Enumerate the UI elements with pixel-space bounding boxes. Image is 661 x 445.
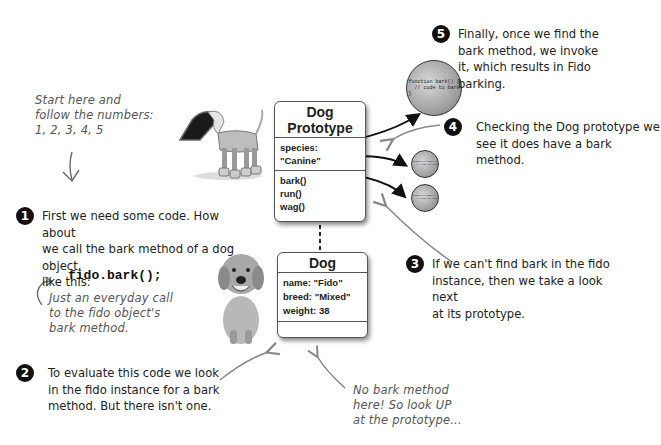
run-function-code: function run() { // code to run } (413, 160, 437, 169)
step-5: 5 Finally, once we find the bark method,… (432, 26, 632, 92)
dog-instance-box: Dog name: "Fido" breed: "Mixed" weight: … (277, 252, 368, 338)
code-note-line: Just an everyday call (49, 291, 189, 306)
wag-function-code: function wag() { // code to wag } (413, 194, 437, 203)
step-3-text: If we can't find bark in the fido instan… (432, 256, 626, 322)
step-text-line: see it does have a bark method. (476, 136, 661, 169)
lookup-note: No bark method here! So look UP at the p… (353, 383, 493, 428)
code-note: Just an everyday call to the fido object… (49, 291, 189, 336)
step-5-text: Finally, once we find the bark method, w… (458, 26, 599, 92)
prototype-title: Dog Prototype (275, 102, 365, 138)
step-2: 2 To evaluate this code we look in the f… (16, 365, 236, 415)
step-4-text: Checking the Dog prototype we see it doe… (476, 119, 661, 169)
step-2-text: To evaluate this code we look in the fid… (48, 365, 220, 415)
code-sample: fido.bark(); (68, 268, 162, 283)
method-run: run() (280, 187, 360, 200)
intro-note: Start here and follow the numbers: 1, 2,… (35, 93, 175, 138)
code-note-line: to the fido object's (49, 306, 189, 321)
step-4: 4 Checking the Dog prototype we see it d… (444, 119, 661, 169)
step-number-badge: 5 (432, 25, 450, 43)
step-text-line: it, which results in Fido (458, 59, 599, 76)
instance-property: name: "Fido" (283, 276, 362, 290)
wag-function-circle: function wag() { // code to wag } (411, 184, 439, 212)
method-bark: bark() (280, 174, 360, 187)
step-text-line: Finally, once we find the (458, 26, 599, 43)
code-note-line: bark method. (49, 321, 189, 336)
dog-prototype-box: Dog Prototype species: "Canine" bark() r… (274, 101, 366, 222)
instance-property: breed: "Mixed" (283, 290, 362, 304)
lookup-note-line: No bark method (353, 383, 493, 398)
robot-dog-image (178, 88, 270, 183)
step-number-badge: 4 (444, 118, 462, 136)
lookup-note-line: here! So look UP (353, 398, 493, 413)
intro-note-line: Start here and (35, 93, 175, 108)
instance-title: Dog (278, 253, 367, 273)
step-text-line: Checking the Dog prototype we (476, 119, 661, 136)
instance-properties: name: "Fido" breed: "Mixed" weight: 38 (278, 273, 367, 322)
prototype-methods: bark() run() wag() (275, 171, 365, 221)
step-text-line: barking. (458, 76, 599, 93)
prototype-properties: species: "Canine" (275, 138, 365, 171)
instance-property: weight: 38 (283, 304, 362, 318)
run-function-circle: function run() { // code to run } (411, 150, 439, 178)
intro-note-line: 1, 2, 3, 4, 5 (35, 123, 175, 138)
step-text-line: To evaluate this code we look (48, 365, 220, 382)
step-text-line: in the fido instance for a bark (48, 382, 220, 399)
instance-methods (278, 322, 367, 346)
step-text-line: method. But there isn't one. (48, 398, 220, 415)
step-text-line: First we need some code. How about (42, 208, 256, 241)
step-3: 3 If we can't find bark in the fido inst… (406, 256, 626, 322)
step-text-line: at its prototype. (432, 306, 626, 323)
step-number-badge: 2 (16, 364, 34, 382)
prototype-property: species: "Canine" (280, 141, 360, 167)
intro-note-line: follow the numbers: (35, 108, 175, 123)
step-text-line: If we can't find bark in the fido (432, 256, 626, 273)
step-text-line: instance, then we take a look next (432, 273, 626, 306)
step-number-badge: 1 (16, 207, 34, 225)
lookup-note-line: at the prototype... (353, 413, 493, 428)
step-number-badge: 3 (406, 255, 424, 273)
method-wag: wag() (280, 200, 360, 213)
step-text-line: bark method, we invoke (458, 43, 599, 60)
